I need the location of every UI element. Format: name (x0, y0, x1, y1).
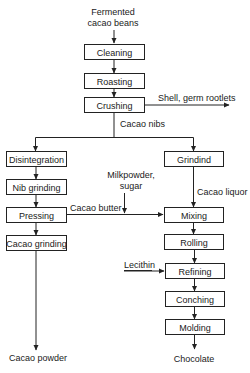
right-final-product: Chocolate (174, 354, 215, 364)
step-label: Grindind (177, 155, 211, 165)
step-mixing: Mixing (165, 208, 224, 223)
input-label-line2: cacao beans (87, 18, 139, 28)
added-ingredients-line1: Milkpowder, (107, 170, 155, 180)
step-cleaning: Cleaning (85, 45, 145, 60)
chocolate-process-flowchart: Fermented cacao beans Cleaning Roasting … (0, 0, 250, 373)
side-output-label: Cacao butter (70, 203, 122, 213)
trunk-output-label: Cacao nibs (120, 119, 166, 129)
step-label: Rolling (180, 238, 208, 248)
step-label: Cacao grinding (6, 239, 67, 249)
step-label: Disintegration (9, 155, 64, 165)
step-roasting: Roasting (85, 74, 145, 89)
step-disintegration: Disintegration (7, 152, 67, 167)
step-label: Roasting (97, 77, 133, 87)
step-refining: Refining (166, 264, 225, 279)
input-label-line1: Fermented (91, 7, 135, 17)
byproduct-label: Shell, germ rootlets (158, 93, 236, 103)
step-label: Crushing (96, 101, 132, 111)
step-rolling: Rolling (165, 235, 224, 250)
step-crushing: Crushing (85, 98, 145, 113)
step-label: Cleaning (97, 48, 133, 58)
left-final-product: Cacao powder (9, 353, 67, 363)
step-nib-grinding: Nib grinding (7, 180, 67, 195)
additive-label: Lecithin (124, 260, 155, 270)
step-label: Molding (179, 323, 211, 333)
step-label: Mixing (181, 211, 207, 221)
step-label: Conching (176, 295, 214, 305)
intermediate-label: Cacao liquor (197, 187, 248, 197)
step-label: Pressing (19, 211, 54, 221)
step-conching: Conching (166, 292, 225, 307)
step-label: Refining (178, 267, 211, 277)
step-pressing: Pressing (7, 208, 67, 223)
step-label: Nib grinding (12, 183, 60, 193)
step-cacao-grinding: Cacao grinding (6, 236, 67, 251)
step-grinding: Grindind (165, 152, 224, 167)
step-molding: Molding (166, 320, 225, 335)
added-ingredients-line2: sugar (120, 181, 143, 191)
